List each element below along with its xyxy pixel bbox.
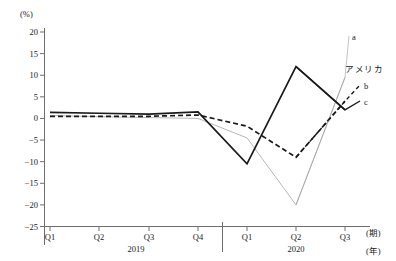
legend-leader-a bbox=[296, 36, 349, 205]
legend-label-b[interactable]: b bbox=[364, 81, 368, 91]
x-tick-label: Q3 bbox=[340, 232, 350, 242]
legend-label-a[interactable]: a bbox=[352, 32, 356, 42]
y-tick-label: −25 bbox=[25, 222, 38, 232]
y-tick-label: −20 bbox=[25, 200, 38, 210]
x-axis-year-label: (年) bbox=[366, 246, 381, 256]
year-label-2020: 2020 bbox=[288, 244, 305, 254]
y-tick-label: 0 bbox=[34, 113, 38, 123]
year-label-2019: 2019 bbox=[128, 244, 145, 254]
x-tick-label: Q1 bbox=[242, 232, 252, 242]
x-tick-label: Q4 bbox=[193, 232, 204, 242]
x-tick-label: Q1 bbox=[45, 232, 55, 242]
x-tick-label: Q3 bbox=[144, 232, 154, 242]
x-tick-label: Q2 bbox=[291, 232, 301, 242]
y-axis-unit-label: (%) bbox=[20, 9, 33, 19]
y-tick-label: 5 bbox=[34, 92, 38, 102]
y-tick-label: −10 bbox=[25, 157, 38, 167]
series-line-b bbox=[50, 101, 345, 157]
x-axis-period-label: (期) bbox=[366, 228, 381, 238]
chart-container: (%) 20151050−5−10−15−20−25 Q1Q2Q3Q4Q1Q2Q… bbox=[0, 0, 396, 261]
x-tick-label: Q2 bbox=[94, 232, 104, 242]
y-tick-label: 10 bbox=[30, 70, 39, 80]
y-tick-label: −15 bbox=[25, 178, 38, 188]
legend-label-c[interactable]: c bbox=[364, 97, 368, 107]
y-tick-label: −5 bbox=[29, 135, 38, 145]
y-axis-ticks: 20151050−5−10−15−20−25 bbox=[25, 27, 45, 232]
x-axis-ticks: Q1Q2Q3Q4Q1Q2Q3 bbox=[45, 227, 350, 243]
series-line-a bbox=[50, 77, 345, 205]
line-chart: (%) 20151050−5−10−15−20−25 Q1Q2Q3Q4Q1Q2Q… bbox=[0, 0, 396, 261]
legend-label-america[interactable]: アメリカ bbox=[345, 64, 383, 74]
y-tick-label: 15 bbox=[30, 49, 39, 59]
y-tick-label: 20 bbox=[30, 27, 39, 37]
